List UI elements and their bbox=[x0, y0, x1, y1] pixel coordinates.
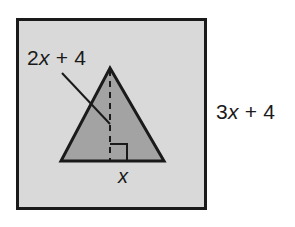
label-square-side: 3x + 4 bbox=[216, 101, 275, 122]
label-hypotenuse: 2x + 4 bbox=[27, 47, 86, 68]
label-hypotenuse-suffix: + 4 bbox=[50, 46, 86, 69]
label-base-variable: x bbox=[118, 165, 128, 187]
geometry-figure: 2x + 4 3x + 4 x bbox=[0, 0, 295, 227]
label-square-side-variable: x bbox=[228, 100, 239, 123]
label-hypotenuse-prefix: 2 bbox=[27, 46, 39, 69]
label-square-side-suffix: + 4 bbox=[239, 100, 275, 123]
label-base: x bbox=[118, 166, 128, 186]
label-hypotenuse-variable: x bbox=[39, 46, 50, 69]
label-square-side-prefix: 3 bbox=[216, 100, 228, 123]
